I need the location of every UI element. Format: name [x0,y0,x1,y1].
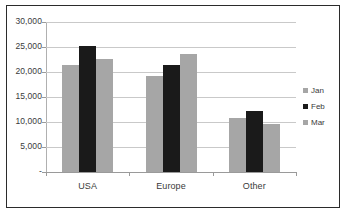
legend-item-jan[interactable]: Jan [303,84,325,97]
x-axis-tick-mark [213,172,214,176]
legend-item-feb[interactable]: Feb [303,100,325,113]
x-axis-category-label: Europe [129,181,212,191]
legend-label: Jan [311,86,324,95]
x-axis-tick-mark [129,172,130,176]
bar-europe-jan[interactable] [146,76,163,172]
bar-usa-jan[interactable] [62,65,79,173]
chart-container: 30,00025,00020,00015,00010,0005,000- USA… [0,0,348,215]
y-axis-tick-label: 15,000 [2,92,42,101]
bar-other-feb[interactable] [246,111,263,173]
y-axis-tick-label: - [2,167,42,176]
legend-item-mar[interactable]: Mar [303,116,325,129]
x-axis-category-label: Other [213,181,296,191]
bar-group [62,22,113,172]
bar-other-mar[interactable] [263,124,280,173]
bar-usa-mar[interactable] [96,59,113,173]
legend-swatch-icon [303,120,308,125]
y-axis-tick-label: 20,000 [2,67,42,76]
legend-label: Mar [311,118,325,127]
legend-label: Feb [311,102,325,111]
plot-area [46,22,296,172]
x-axis-tick-mark [296,172,297,176]
bar-europe-feb[interactable] [163,65,180,172]
legend-swatch-icon [303,88,308,93]
y-axis-tick-label: 25,000 [2,42,42,51]
chart-legend: JanFebMar [303,84,325,132]
bar-other-jan[interactable] [229,118,246,173]
y-axis-labels: 30,00025,00020,00015,00010,0005,000- [0,0,42,215]
y-axis-tick-label: 5,000 [2,142,42,151]
bar-group [229,22,280,172]
bar-group [146,22,197,172]
bar-usa-feb[interactable] [79,46,96,173]
x-axis-category-label: USA [46,181,129,191]
bar-europe-mar[interactable] [180,54,197,173]
x-axis-tick-mark [46,172,47,176]
gridline [46,172,296,173]
legend-swatch-icon [303,104,308,109]
y-axis-tick-label: 10,000 [2,117,42,126]
y-axis-tick-label: 30,000 [2,17,42,26]
